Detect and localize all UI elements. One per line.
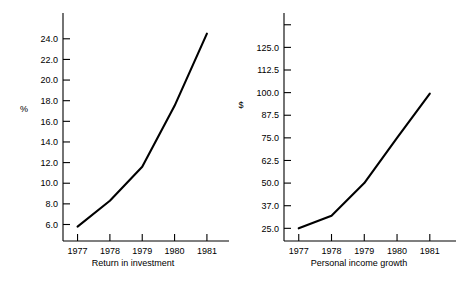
- x-axis-title: Return in investment: [92, 258, 175, 268]
- x-axis-tick-label: 1980: [387, 246, 407, 256]
- x-axis-tick-label: 1981: [420, 246, 440, 256]
- chart-panel-personal-income-growth: 25.037.050.062.575.087.5100.0112.5125.0$…: [233, 0, 465, 293]
- y-axis-tick-label: 37.0: [261, 201, 279, 211]
- y-axis-tick-label: 25.0: [261, 224, 279, 234]
- data-series-line: [78, 34, 207, 227]
- x-axis-tick-label: 1977: [68, 246, 88, 256]
- chart-panel-return-on-investment: 6.08.010.012.014.016.018.020.022.024.0%1…: [0, 0, 232, 293]
- y-axis-tick-label: 16.0: [40, 117, 58, 127]
- y-axis-tick-label: 6.0: [45, 220, 58, 230]
- y-axis-unit-label: $: [238, 100, 243, 110]
- y-axis-tick-label: 10.0: [40, 178, 58, 188]
- x-axis-tick-label: 1979: [354, 246, 374, 256]
- data-series-line: [299, 94, 430, 229]
- y-axis-tick-label: 24.0: [40, 34, 58, 44]
- y-axis-tick-label: 8.0: [45, 199, 58, 209]
- line-chart-personal-income-growth: 25.037.050.062.575.087.5100.0112.5125.0$…: [233, 0, 465, 293]
- y-axis-tick-label: 87.5: [261, 110, 279, 120]
- y-axis-tick-label: 50.0: [261, 178, 279, 188]
- y-axis-tick-label: 112.5: [257, 65, 279, 75]
- x-axis-tick-label: 1978: [100, 246, 120, 256]
- x-axis-tick-label: 1977: [289, 246, 309, 256]
- x-axis-tick-label: 1981: [197, 246, 217, 256]
- y-axis-tick-label: 14.0: [40, 137, 58, 147]
- y-axis-tick-label: 62.5: [261, 156, 279, 166]
- line-chart-return-on-investment: 6.08.010.012.014.016.018.020.022.024.0%1…: [0, 0, 232, 293]
- y-axis-unit-label: %: [20, 104, 28, 114]
- figure-container: 6.08.010.012.014.016.018.020.022.024.0%1…: [0, 0, 465, 293]
- x-axis-tick-label: 1980: [165, 246, 185, 256]
- x-axis-tick-label: 1979: [132, 246, 152, 256]
- x-axis-title: Personal income growth: [311, 258, 408, 268]
- x-axis-tick-label: 1978: [321, 246, 341, 256]
- y-axis-tick-label: 20.0: [40, 75, 58, 85]
- y-axis-tick-label: 100.0: [256, 88, 279, 98]
- y-axis-tick-label: 75.0: [261, 133, 279, 143]
- y-axis-tick-label: 18.0: [40, 96, 58, 106]
- y-axis-tick-label: 125.0: [256, 43, 279, 53]
- y-axis-tick-label: 12.0: [40, 158, 58, 168]
- y-axis-tick-label: 22.0: [40, 55, 58, 65]
